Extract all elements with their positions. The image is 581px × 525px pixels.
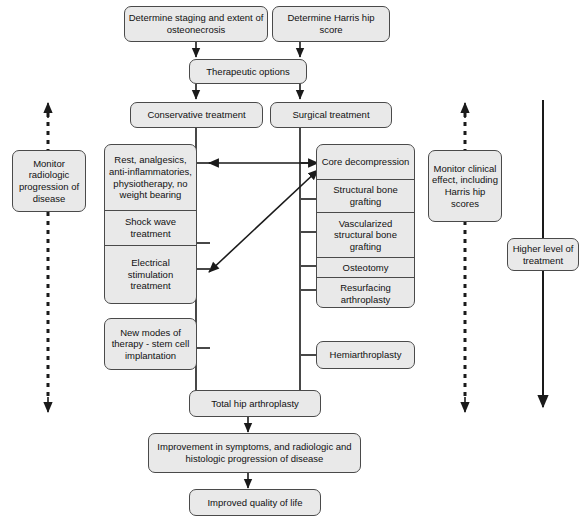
node-monitor-clinical[interactable]: Monitor clinical effect, including Harri… [428, 150, 502, 222]
node-surgical-treatment-label: Surgical treatment [292, 109, 369, 121]
node-improved-quality-of-life-label: Improved quality of life [207, 497, 302, 509]
node-conservative-treatment[interactable]: Conservative treatment [130, 102, 263, 128]
node-resurfacing-arthroplasty[interactable]: Resurfacing arthroplasty [317, 278, 414, 308]
node-new-modes-of-therapy[interactable]: New modes of therapy - stem cell implant… [104, 318, 197, 370]
node-improvement-symptoms-label: Improvement in symptoms, and radiologic … [152, 441, 357, 464]
node-new-modes-of-therapy-label: New modes of therapy - stem cell implant… [108, 327, 193, 362]
node-higher-level-of-treatment-label: Higher level of treatment [510, 243, 576, 266]
flowchart-canvas: Determine staging and extent of osteonec… [0, 0, 581, 525]
node-monitor-radiologic[interactable]: Monitor radiologic progression of diseas… [12, 150, 86, 212]
surgical-treatment-stack: Core decompression Structural bone graft… [316, 144, 415, 308]
node-surgical-treatment[interactable]: Surgical treatment [270, 102, 392, 128]
node-total-hip-arthroplasty-label: Total hip arthroplasty [211, 398, 299, 410]
node-resurfacing-arthroplasty-label: Resurfacing arthroplasty [320, 282, 411, 305]
node-structural-bone-grafting[interactable]: Structural bone grafting [317, 180, 414, 213]
node-determine-staging-label: Determine staging and extent of osteonec… [128, 12, 264, 35]
node-determine-harris[interactable]: Determine Harris hip score [272, 6, 390, 42]
node-shock-wave[interactable]: Shock wave treatment [105, 211, 196, 246]
node-hemiarthroplasty-label: Hemiarthroplasty [330, 349, 402, 361]
conservative-treatment-stack: Rest, analgesics, anti-inflammatories, p… [104, 144, 197, 304]
node-therapeutic-options-label: Therapeutic options [206, 66, 289, 78]
node-core-decompression-label: Core decompression [322, 156, 410, 168]
node-improvement-symptoms[interactable]: Improvement in symptoms, and radiologic … [148, 433, 361, 473]
node-determine-harris-label: Determine Harris hip score [276, 12, 386, 35]
edge-electrical-core-diagonal [209, 170, 318, 272]
node-osteotomy-label: Osteotomy [343, 262, 389, 274]
node-osteotomy[interactable]: Osteotomy [317, 258, 414, 278]
node-rest-analgesics[interactable]: Rest, analgesics, anti-inflammatories, p… [105, 145, 196, 211]
node-electrical-stimulation[interactable]: Electrical stimulation treatment [105, 246, 196, 303]
node-total-hip-arthroplasty[interactable]: Total hip arthroplasty [189, 390, 321, 417]
node-core-decompression[interactable]: Core decompression [317, 145, 414, 180]
node-therapeutic-options[interactable]: Therapeutic options [189, 59, 307, 84]
node-higher-level-of-treatment[interactable]: Higher level of treatment [507, 238, 579, 271]
node-monitor-clinical-label: Monitor clinical effect, including Harri… [431, 163, 499, 209]
node-hemiarthroplasty[interactable]: Hemiarthroplasty [316, 341, 415, 369]
node-vascularized-grafting-label: Vascularized structural bone grafting [320, 218, 411, 253]
node-shock-wave-label: Shock wave treatment [108, 216, 193, 239]
node-monitor-radiologic-label: Monitor radiologic progression of diseas… [15, 158, 83, 204]
node-structural-bone-grafting-label: Structural bone grafting [320, 184, 411, 207]
node-electrical-stimulation-label: Electrical stimulation treatment [108, 257, 193, 292]
node-improved-quality-of-life[interactable]: Improved quality of life [189, 489, 321, 516]
node-determine-staging[interactable]: Determine staging and extent of osteonec… [124, 6, 268, 42]
node-rest-analgesics-label: Rest, analgesics, anti-inflammatories, p… [108, 154, 193, 200]
node-conservative-treatment-label: Conservative treatment [147, 109, 245, 121]
node-vascularized-grafting[interactable]: Vascularized structural bone grafting [317, 213, 414, 258]
